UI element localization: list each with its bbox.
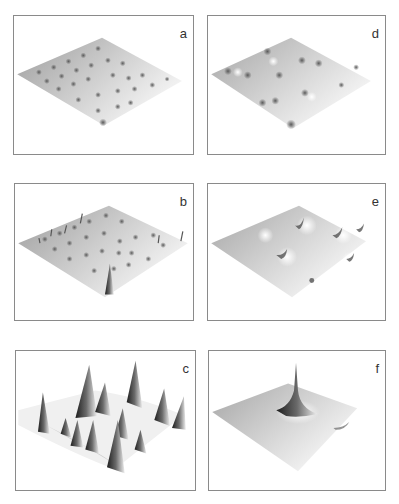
panel-d: d	[207, 15, 386, 155]
surface-plot-d	[208, 16, 385, 154]
panel-label-c: c	[183, 362, 190, 375]
surface-plot-c	[16, 351, 195, 490]
panel-label-e: e	[372, 195, 379, 208]
surface-plot-b	[15, 184, 193, 320]
panel-label-a: a	[180, 27, 187, 40]
surface-plot-f	[209, 351, 385, 490]
panel-c: c	[15, 350, 196, 491]
panel-a: a	[13, 15, 194, 155]
surface-plot-e	[208, 184, 385, 320]
panel-f: f	[208, 350, 386, 491]
panel-label-f: f	[375, 362, 379, 375]
surface-plot-a	[14, 16, 193, 154]
panel-b: b	[14, 183, 194, 321]
panel-e: e	[207, 183, 386, 321]
panel-label-d: d	[372, 27, 379, 40]
panel-label-b: b	[180, 195, 187, 208]
